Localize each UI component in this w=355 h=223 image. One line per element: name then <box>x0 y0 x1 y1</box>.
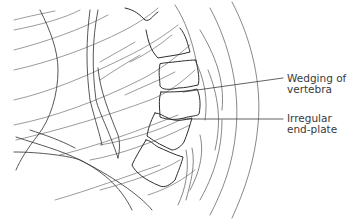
annotation-wedging: Wedging of vertebra <box>287 73 346 95</box>
sweep-contours <box>14 8 195 200</box>
vertebra-1 <box>125 8 158 20</box>
spine-diagram: Wedging of vertebra Irregular end-plate <box>0 0 355 223</box>
vertebra-4 <box>159 89 200 119</box>
annotation-endplate-line2: end-plate <box>287 124 337 135</box>
outer-contours <box>175 2 259 218</box>
annotation-endplate: Irregular end-plate <box>287 113 337 135</box>
vertebra-6 <box>132 140 183 187</box>
annotation-wedging-line2: vertebra <box>287 84 346 95</box>
lower-curves <box>14 130 152 210</box>
vertical-structures <box>16 10 120 170</box>
vertebrae <box>125 8 200 187</box>
